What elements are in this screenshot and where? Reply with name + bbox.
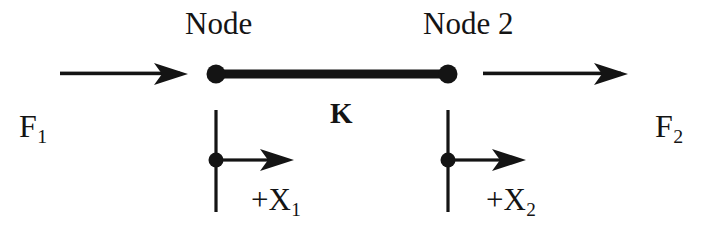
displacement-label-x2-symbol: +X — [486, 182, 526, 217]
force-label-f2: F2 — [655, 110, 683, 142]
displacement-label-x1: +X1 — [251, 184, 301, 215]
diagram-canvas — [0, 0, 714, 228]
displacement-label-x2-subscript: 2 — [526, 199, 536, 220]
node-label-2: Node 2 — [423, 8, 513, 39]
force-arrow-f2 — [483, 63, 628, 85]
force-arrow-f1 — [60, 63, 188, 85]
force-label-f1-subscript: 1 — [37, 125, 47, 147]
spring-element-bar — [216, 70, 448, 79]
node-label-1: Node — [185, 8, 252, 39]
node-marker-1 — [207, 65, 226, 84]
force-label-f1-symbol: F — [19, 108, 37, 144]
spring-element-diagram: Node Node 2 K F1 F2 +X1 +X2 — [0, 0, 714, 228]
displacement-label-x1-symbol: +X — [251, 182, 291, 217]
stiffness-label: K — [330, 99, 353, 128]
node-marker-2 — [439, 65, 458, 84]
displacement-label-x1-subscript: 1 — [291, 199, 301, 220]
force-label-f1: F1 — [19, 110, 47, 142]
force-label-f2-symbol: F — [655, 108, 673, 144]
displacement-label-x2: +X2 — [486, 184, 536, 215]
force-label-f2-subscript: 2 — [673, 125, 683, 147]
